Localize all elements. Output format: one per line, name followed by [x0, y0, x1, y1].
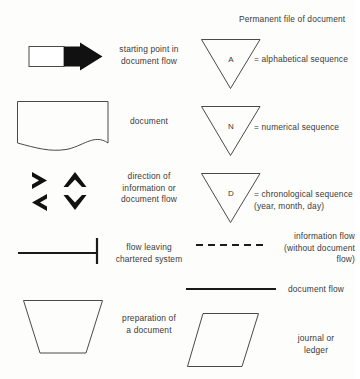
parallelogram-symbol	[186, 312, 260, 368]
document-wavy-bottom-symbol	[16, 100, 110, 152]
label-alphabetical-sequence: = alphabetical sequence	[254, 54, 360, 66]
inverted-trapezoid-symbol	[22, 299, 104, 355]
label-starting-point: starting point in document flow	[104, 44, 194, 67]
four-chevrons-symbol	[28, 170, 100, 214]
label-chronological-sequence: = chronological sequence (year, month, d…	[254, 189, 360, 212]
line-with-end-bar-symbol	[18, 236, 104, 264]
block-arrow-right-symbol	[28, 42, 104, 72]
label-preparation-of-a-document: preparation of a document	[104, 313, 194, 336]
solid-line-symbol	[186, 285, 278, 293]
label-document: document	[104, 116, 194, 128]
label-numerical-sequence: = numerical sequence	[254, 122, 360, 134]
label-direction-of-flow: direction of information or document flo…	[104, 171, 194, 206]
label-document-flow: document flow	[288, 284, 360, 296]
triangle-letter-numerical: N	[214, 121, 248, 133]
label-journal-or-ledger: journal or ledger	[280, 333, 352, 356]
permanent-file-heading: Permanent file of document	[239, 14, 360, 26]
triangle-letter-alphabetical: A	[214, 54, 248, 66]
triangle-letter-chronological: D	[214, 188, 248, 200]
label-flow-leaving-chartered-system: flow leaving chartered system	[104, 242, 194, 265]
label-information-flow: information flow (without document flow)	[252, 231, 355, 266]
